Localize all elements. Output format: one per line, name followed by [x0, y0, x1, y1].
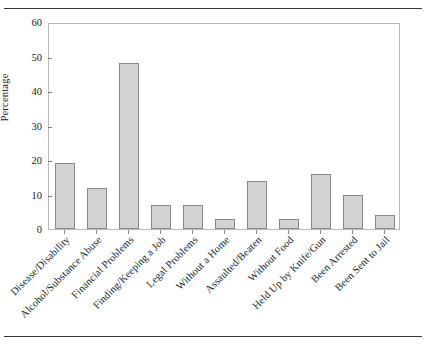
bar[interactable] [183, 205, 203, 229]
bar-series [49, 24, 399, 229]
bar-slot [241, 24, 273, 229]
bar[interactable] [375, 215, 395, 229]
bar[interactable] [247, 181, 267, 229]
top-rule [4, 8, 422, 9]
bar[interactable] [343, 195, 363, 230]
bar-slot [81, 24, 113, 229]
y-axis-tick-label: 20 [18, 156, 42, 167]
bar[interactable] [87, 188, 107, 229]
plot-area [48, 23, 400, 230]
bar[interactable] [55, 163, 75, 229]
bar-slot [273, 24, 305, 229]
y-axis-tick-label: 50 [18, 52, 42, 63]
y-axis-tick-label: 40 [18, 87, 42, 98]
bar-slot [113, 24, 145, 229]
y-axis-tick-label: 30 [18, 121, 42, 132]
y-axis-tick-label: 10 [18, 190, 42, 201]
bar-slot [209, 24, 241, 229]
bar-slot [305, 24, 337, 229]
bar-slot [177, 24, 209, 229]
y-axis-tick-mark [48, 92, 52, 93]
bar[interactable] [279, 219, 299, 229]
y-axis-tick-labels: 0102030405060 [14, 23, 42, 230]
y-axis-tick-mark [48, 161, 52, 162]
y-axis-tick-mark [48, 196, 52, 197]
figure: Percentage 0102030405060 Disease/Disabil… [0, 0, 426, 345]
y-axis-tick-label: 60 [18, 18, 42, 29]
y-axis-tick-mark [48, 58, 52, 59]
bar[interactable] [151, 205, 171, 229]
y-axis-tick-mark [48, 127, 52, 128]
bar-slot [145, 24, 177, 229]
bar[interactable] [311, 174, 331, 229]
bar[interactable] [119, 63, 139, 229]
bar-slot [369, 24, 401, 229]
bar-slot [337, 24, 369, 229]
bar[interactable] [215, 219, 235, 229]
y-axis-tick-label: 0 [18, 225, 42, 236]
y-axis-title: Percentage [0, 38, 10, 158]
bar-slot [49, 24, 81, 229]
